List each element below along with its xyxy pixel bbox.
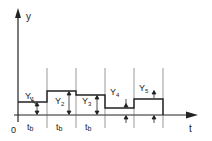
x-axis bbox=[14, 112, 198, 119]
y-axis bbox=[15, 8, 21, 122]
y-axis-arrow-icon bbox=[15, 8, 21, 18]
segment-label-y5: Y5 bbox=[139, 83, 149, 94]
segment-label-y2: Y2 bbox=[55, 96, 65, 107]
step-function-diagram: y t 0 bbox=[0, 0, 212, 141]
interval-label-3: tb bbox=[85, 122, 92, 132]
interval-label-1: tb bbox=[27, 122, 34, 132]
interval-label-2: tb bbox=[56, 122, 63, 132]
segment-label-y4: Y4 bbox=[110, 87, 120, 98]
segment-label-y3: Y3 bbox=[82, 96, 92, 107]
y-axis-label: y bbox=[26, 11, 31, 22]
segment-label-y1: Y1 bbox=[25, 91, 35, 102]
origin-label: 0 bbox=[11, 125, 16, 135]
x-axis-arrow-icon bbox=[186, 112, 198, 119]
x-axis-label: t bbox=[189, 123, 192, 134]
